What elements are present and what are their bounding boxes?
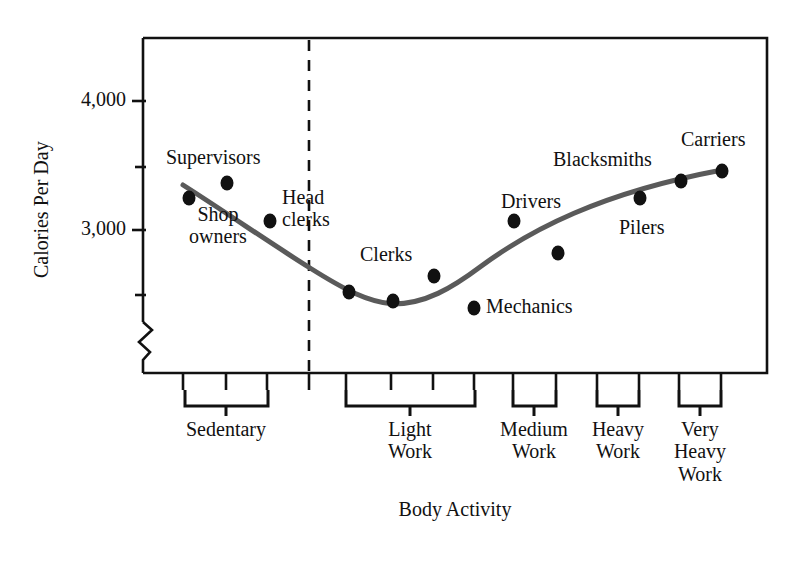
x-axis-ticks: [183, 373, 721, 390]
point-blacksmiths: [675, 174, 688, 189]
point-label-mechanics: Mechanics: [486, 295, 573, 317]
point-drivers: [508, 214, 521, 229]
bracket-medium-work: [513, 390, 556, 406]
y-tick-label-4000: 4,000: [38, 88, 126, 110]
calories-vs-body-activity-chart: 4,000 3,000 Calories Per Day Body Activi…: [0, 0, 811, 561]
point-label-blacksmiths: Blacksmiths: [553, 148, 652, 170]
point-label-drivers: Drivers: [501, 190, 561, 212]
point-clerks: [428, 269, 441, 284]
x-axis-title: Body Activity: [355, 498, 555, 520]
point-pilers: [634, 191, 647, 206]
point-medium-work-2: [552, 246, 565, 261]
point-label-clerks: Clerks: [360, 243, 412, 265]
x-axis-group-brackets: [185, 390, 721, 416]
bracket-sedentary: [185, 390, 268, 406]
point-label-head-clerks: Head clerks: [282, 186, 330, 231]
point-label-supervisors: Supervisors: [166, 146, 260, 168]
group-label-heavy-work: Heavy Work: [573, 418, 663, 463]
point-supervisors: [221, 176, 234, 191]
group-label-sedentary: Sedentary: [166, 418, 286, 440]
point-light-work-1: [343, 285, 356, 300]
bracket-heavy-work: [597, 390, 639, 406]
y-axis-break-symbol: [139, 322, 152, 373]
bracket-very-heavy-work: [679, 390, 721, 406]
point-carriers: [716, 164, 729, 179]
point-label-shop-owners: Shop owners: [163, 203, 273, 248]
group-label-light-work: Light Work: [360, 418, 460, 463]
group-label-very-heavy-work: Very Heavy Work: [655, 418, 745, 485]
bracket-light-work: [346, 390, 475, 406]
point-light-work-2: [387, 294, 400, 309]
point-mechanics: [468, 301, 481, 316]
y-axis-title: Calories Per Day: [30, 141, 52, 278]
point-label-carriers: Carriers: [681, 128, 745, 150]
group-label-medium-work: Medium Work: [484, 418, 584, 463]
point-label-pilers: Pilers: [619, 216, 665, 238]
